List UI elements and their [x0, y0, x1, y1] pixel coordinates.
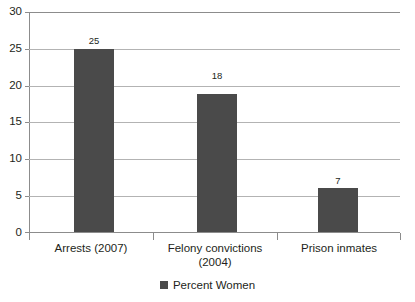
- category-label-line-2: (2004): [153, 255, 277, 269]
- x-axis-tick-start: [29, 233, 30, 240]
- legend-square-icon: [160, 281, 168, 289]
- x-axis-category-label-arrests-2007: Arrests (2007): [29, 241, 153, 255]
- bar-felony-convictions-2004[interactable]: [197, 94, 237, 232]
- bar-value-label-prison-inmates: 7: [318, 176, 358, 186]
- y-tick-30: [25, 12, 29, 13]
- bar-value-label-felony-convictions-2004: 18: [197, 71, 237, 81]
- y-axis-label-5: 5: [16, 190, 22, 202]
- gridline-30: [29, 12, 400, 13]
- x-axis-tick-1: [153, 233, 154, 240]
- y-tick-20: [25, 86, 29, 87]
- x-axis-tick-2: [277, 233, 278, 240]
- bar-value-label-arrests-2007: 25: [74, 36, 114, 46]
- bar-chart: 30 25 20 15 10 5 0 25 18 7 Arre: [0, 0, 415, 302]
- y-axis-label-15: 15: [9, 116, 22, 128]
- x-axis-category-label-prison-inmates: Prison inmates: [277, 241, 401, 255]
- category-label-line-1: Arrests (2007): [29, 241, 153, 255]
- y-axis-label-25: 25: [9, 43, 22, 55]
- x-axis-category-label-felony-convictions-2004: Felony convictions (2004): [153, 241, 277, 269]
- bar-arrests-2007[interactable]: [74, 49, 114, 232]
- y-tick-10: [25, 159, 29, 160]
- y-axis-label-0: 0: [16, 227, 22, 239]
- legend-item-label-percent-women: Percent Women: [173, 279, 255, 291]
- y-axis-label-30: 30: [9, 6, 22, 18]
- y-axis-label-10: 10: [9, 153, 22, 165]
- y-tick-25: [25, 49, 29, 50]
- y-tick-15: [25, 122, 29, 123]
- y-axis-label-20: 20: [9, 80, 22, 92]
- bar-prison-inmates[interactable]: [318, 188, 358, 232]
- x-axis-tick-end: [400, 233, 401, 240]
- chart-legend: Percent Women: [0, 279, 415, 291]
- category-label-line-1: Felony convictions: [153, 241, 277, 255]
- x-axis-line: [29, 232, 400, 233]
- y-tick-5: [25, 196, 29, 197]
- category-label-line-1: Prison inmates: [277, 241, 401, 255]
